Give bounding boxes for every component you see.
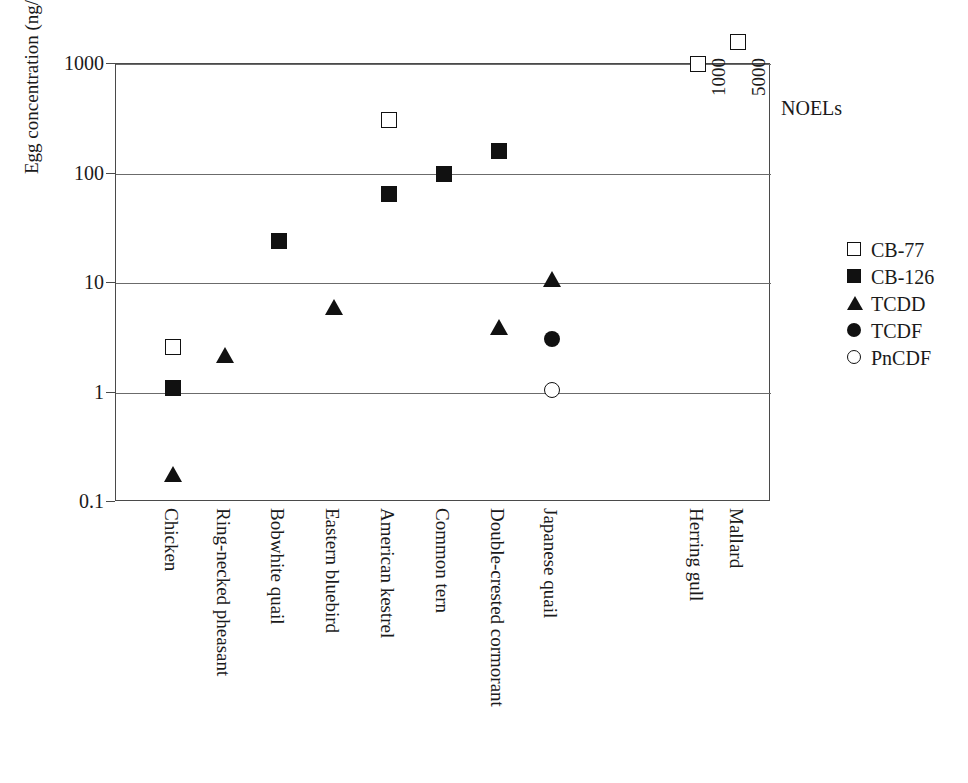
triangle-filled-marker-icon (216, 347, 234, 363)
y-tick-mark (106, 63, 115, 64)
y-tick-label: 1000 (64, 53, 104, 73)
square-filled-marker-icon (491, 143, 507, 159)
y-tick-label: 0.1 (79, 491, 104, 511)
y-tick-10: 10 (0, 272, 104, 292)
square-filled-marker-icon (436, 166, 452, 182)
legend-item-label: PnCDF (867, 347, 931, 369)
plot-area (115, 63, 770, 501)
y-tick-0-1: 0.1 (0, 491, 104, 511)
data-markers-layer (116, 64, 771, 502)
legend-item-tcdf[interactable]: TCDF (845, 317, 965, 344)
circle-open-marker-icon (544, 382, 560, 398)
y-tick-1: 1 (0, 382, 104, 402)
legend-item-cb-77[interactable]: CB-77 (845, 236, 965, 263)
circle-open-legend-icon (845, 348, 867, 368)
square-open-legend-icon (845, 240, 867, 260)
y-tick-label: 100 (74, 163, 104, 183)
square-filled-marker-icon (165, 380, 181, 396)
legend-item-cb-126[interactable]: CB-126 (845, 263, 965, 290)
y-tick-label: 1 (94, 382, 104, 402)
y-tick-mark (106, 282, 115, 283)
square-open-marker-icon (165, 339, 181, 355)
y-tick-label: 10 (84, 272, 104, 292)
y-tick-mark (106, 392, 115, 393)
legend-item-label: CB-77 (867, 239, 924, 261)
legend-item-tcdd[interactable]: TCDD (845, 290, 965, 317)
triangle-filled-marker-icon (325, 299, 343, 315)
circle-filled-legend-icon (845, 321, 867, 341)
x-axis-label-american-kestrel: American kestrel (376, 508, 398, 768)
x-axis-label-mallard: Mallard (725, 508, 747, 768)
y-tick-100: 100 (0, 163, 104, 183)
triangle-filled-legend-icon (845, 294, 867, 314)
y-axis-title: Egg concentration (ng/g ww) (20, 0, 44, 174)
square-open-marker-icon (690, 56, 706, 72)
x-axis-label-chicken: Chicken (160, 508, 182, 768)
x-axis-label-herring-gull: Herring gull (685, 508, 707, 768)
x-axis-label-ring-necked-pheasant: Ring-necked pheasant (212, 508, 234, 768)
square-open-marker-icon (381, 112, 397, 128)
noel-label-herring-gull: 1000 (709, 0, 729, 96)
square-filled-marker-icon (381, 186, 397, 202)
y-tick-mark (106, 501, 115, 502)
square-filled-legend-icon (845, 267, 867, 287)
triangle-filled-marker-icon (490, 319, 508, 335)
x-axis-label-eastern-bluebird: Eastern bluebird (321, 508, 343, 768)
x-axis-label-common-tern: Common tern (431, 508, 453, 768)
legend-item-pncdf[interactable]: PnCDF (845, 344, 965, 371)
figure-canvas: Egg concentration (ng/g ww) 10001001010.… (0, 0, 968, 783)
circle-filled-marker-icon (544, 331, 560, 347)
x-axis-label-japanese-quail: Japanese quail (539, 508, 561, 768)
legend-item-label: CB-126 (867, 266, 934, 288)
x-axis-label-bobwhite-quail: Bobwhite quail (266, 508, 288, 768)
noel-label-mallard: 5000 (749, 0, 769, 96)
square-filled-marker-icon (271, 233, 287, 249)
legend-item-label: TCDD (867, 293, 925, 315)
y-tick-mark (106, 173, 115, 174)
triangle-filled-marker-icon (164, 466, 182, 482)
triangle-filled-marker-icon (543, 271, 561, 287)
legend-item-label: TCDF (867, 320, 922, 342)
legend: CB-77CB-126TCDDTCDFPnCDF (845, 236, 965, 371)
square-open-marker-icon (730, 34, 746, 50)
y-tick-1000: 1000 (0, 53, 104, 73)
x-axis-label-double-crested-cormorant: Double-crested cormorant (486, 508, 508, 768)
noel-title: NOELs (781, 97, 842, 119)
